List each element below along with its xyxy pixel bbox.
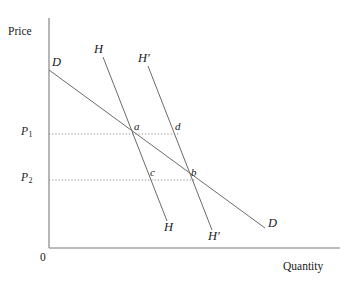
price-tick-p1-symbol: P: [21, 125, 28, 137]
curve-label-d-bottom: D: [268, 217, 277, 230]
curve-label-h-prime-top: H': [138, 52, 150, 65]
curve-h: [103, 57, 167, 221]
point-label-a: a: [134, 121, 140, 132]
point-label-b: b: [191, 167, 197, 178]
origin-label: 0: [40, 252, 46, 264]
point-label-d: d: [175, 121, 181, 132]
price-tick-p2-symbol: P: [21, 171, 28, 183]
price-tick-p2: P2: [21, 172, 32, 185]
price-tick-p1-subscript: 1: [28, 130, 32, 139]
curve-d: [49, 70, 265, 228]
curve-label-d-top: D: [52, 56, 61, 69]
diagram-canvas: [0, 0, 349, 286]
point-label-c: c: [150, 167, 155, 178]
curve-label-h-bottom: H: [164, 221, 173, 234]
price-quantity-diagram: Price Quantity 0 P1 P2 D D H H H' H' a d…: [0, 0, 349, 286]
x-axis-title: Quantity: [283, 261, 323, 273]
curve-label-h-top: H: [94, 43, 103, 56]
y-axis-title: Price: [8, 26, 32, 38]
curve-label-h-prime-bottom: H': [208, 230, 220, 243]
curve-h-prime: [148, 66, 212, 230]
price-tick-p1: P1: [21, 126, 32, 139]
price-tick-p2-subscript: 2: [28, 176, 32, 185]
